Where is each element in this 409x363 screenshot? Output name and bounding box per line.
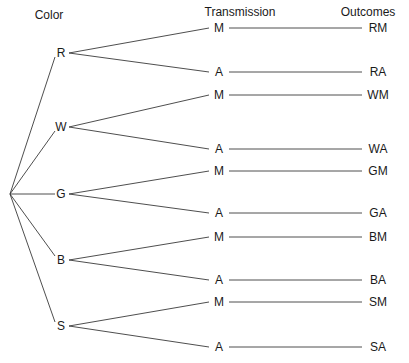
outcome-sa: SA	[370, 340, 386, 354]
transmission-node-rm: M	[214, 21, 224, 35]
transmission-node-sm: M	[214, 295, 224, 309]
branch-g-to-m	[69, 171, 209, 194]
outcome-wa: WA	[369, 142, 388, 156]
header-transmission: Transmission	[205, 5, 276, 19]
color-node-s: S	[57, 319, 65, 333]
branch-r-to-a	[69, 53, 209, 72]
header-outcomes: Outcomes	[341, 5, 396, 19]
transmission-node-ba: A	[215, 273, 223, 287]
outcome-bm: BM	[369, 230, 387, 244]
transmission-node-bm: M	[214, 230, 224, 244]
outcome-ra: RA	[370, 65, 387, 79]
branch-root-to-w	[10, 131, 55, 194]
branch-s-to-a	[69, 326, 209, 347]
branch-b-to-a	[69, 260, 209, 280]
color-node-b: B	[57, 253, 65, 267]
outcome-gm: GM	[368, 164, 387, 178]
color-node-r: R	[57, 46, 66, 60]
outcome-sm: SM	[369, 295, 387, 309]
transmission-node-ra: A	[215, 65, 223, 79]
outcome-rm: RM	[369, 21, 388, 35]
branch-g-to-a	[69, 194, 209, 213]
branch-b-to-m	[69, 237, 209, 260]
branch-r-to-m	[69, 28, 209, 53]
color-node-g: G	[56, 187, 65, 201]
transmission-node-ga: A	[215, 206, 223, 220]
outcome-wm: WM	[367, 88, 388, 102]
transmission-node-wa: A	[215, 142, 223, 156]
transmission-node-sa: A	[215, 340, 223, 354]
branch-s-to-m	[69, 302, 209, 326]
header-color: Color	[35, 8, 64, 22]
color-node-w: W	[55, 120, 66, 134]
branch-w-to-m	[69, 95, 209, 127]
outcome-ba: BA	[370, 273, 386, 287]
branch-root-to-s	[10, 194, 55, 322]
branch-root-to-r	[10, 57, 55, 194]
branch-w-to-a	[69, 127, 209, 149]
outcome-ga: GA	[369, 206, 386, 220]
branch-root-to-b	[10, 194, 55, 256]
transmission-node-wm: M	[214, 88, 224, 102]
transmission-node-gm: M	[214, 164, 224, 178]
